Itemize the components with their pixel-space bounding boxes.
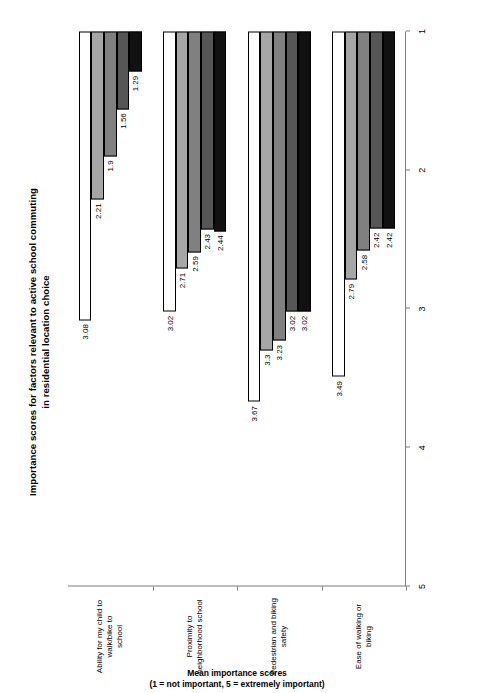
- value-axis-tick-label: 4: [417, 432, 427, 462]
- category-axis-tick-mark: [406, 586, 407, 590]
- bar: [129, 31, 142, 71]
- bar-value-label: 2.44: [215, 235, 224, 255]
- category-label-line: Ability for my child to walk/bike to: [95, 592, 115, 680]
- bar-value-label: 1.9: [106, 160, 115, 180]
- bar: [286, 31, 299, 311]
- value-axis-tick-label: 1: [417, 16, 427, 46]
- value-axis-tick-mark: [406, 169, 410, 170]
- bar-value-label: 3.02: [287, 315, 296, 335]
- bar: [383, 31, 396, 228]
- bar-value-label: 1.56: [118, 113, 127, 133]
- page-title: Importance scores for factors relevant t…: [26, 0, 52, 683]
- bar: [176, 31, 189, 268]
- bar: [201, 31, 214, 229]
- bar-value-label: 2.71: [178, 272, 187, 292]
- bar: [188, 31, 201, 252]
- bar-value-label: 3.67: [250, 405, 259, 425]
- bar-value-label: 2.58: [359, 254, 368, 274]
- value-axis-tick-label: 3: [417, 294, 427, 324]
- value-axis-tick-label: 2: [417, 155, 427, 185]
- value-axis-tick-mark: [406, 308, 410, 309]
- bar: [248, 31, 261, 401]
- bar: [357, 31, 370, 250]
- chart-title-line-2: in residential location choice: [39, 0, 52, 683]
- bar: [214, 31, 227, 231]
- bar: [91, 31, 104, 199]
- bar-value-label: 2.21: [93, 203, 102, 223]
- bar: [79, 31, 92, 320]
- category-label-line: Pedestrian and biking safety: [269, 592, 289, 680]
- value-axis-tick-label: 5: [417, 571, 427, 601]
- category-label-line: Proximity to neighborhood school: [185, 592, 205, 680]
- bar-value-label: 2.42: [384, 232, 393, 252]
- bar-value-label: 3.08: [81, 324, 90, 344]
- bar: [370, 31, 383, 228]
- category-axis-tick-mark: [153, 586, 154, 590]
- category-label: Ability for my child to walk/bike toscho…: [95, 592, 125, 680]
- bar-value-label: 3.23: [275, 344, 284, 364]
- category-label-line: Ease of walking or biking: [354, 592, 374, 680]
- plot-area: 54321 Ability for my child to walk/bike …: [68, 31, 406, 586]
- bar: [163, 31, 176, 311]
- bar-value-label: 2.59: [190, 256, 199, 276]
- bar: [332, 31, 345, 376]
- bar-value-label: 1.29: [131, 75, 140, 95]
- chart-title-line-1: Importance scores for factors relevant t…: [26, 0, 39, 683]
- category-label-line: school: [115, 592, 125, 680]
- category-label: Pedestrian and biking safety: [269, 592, 289, 680]
- bar-value-label: 3.02: [300, 315, 309, 335]
- bar: [104, 31, 117, 156]
- bar-value-label: 2.43: [203, 233, 212, 253]
- category-axis-tick-mark: [237, 586, 238, 590]
- bar: [260, 31, 273, 350]
- bar: [273, 31, 286, 340]
- category-axis-tick-mark: [322, 586, 323, 590]
- bar-value-label: 3.49: [334, 381, 343, 401]
- bar-value-label: 3.3: [262, 354, 271, 374]
- value-axis-tick-mark: [406, 30, 410, 31]
- bar: [345, 31, 358, 279]
- bar-value-label: 2.79: [347, 283, 356, 303]
- category-label: Proximity to neighborhood school: [185, 592, 205, 680]
- bar: [117, 31, 130, 109]
- value-axis-tick-mark: [406, 446, 410, 447]
- category-label: Ease of walking or biking: [354, 592, 374, 680]
- bar-value-label: 2.42: [372, 232, 381, 252]
- bar: [298, 31, 311, 311]
- bar-value-label: 3.02: [165, 315, 174, 335]
